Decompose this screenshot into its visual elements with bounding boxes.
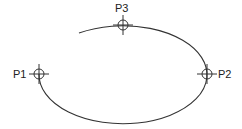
ellipse-diagram: P1 P2 P3 [0, 0, 242, 129]
point-marker-p1: P1 [13, 64, 49, 84]
point-label-p2: P2 [218, 68, 231, 80]
ellipse-arc [39, 26, 207, 124]
point-marker-p2: P2 [197, 64, 231, 84]
point-label-p3: P3 [115, 2, 128, 14]
point-marker-p3: P3 [113, 2, 133, 35]
point-label-p1: P1 [13, 68, 26, 80]
